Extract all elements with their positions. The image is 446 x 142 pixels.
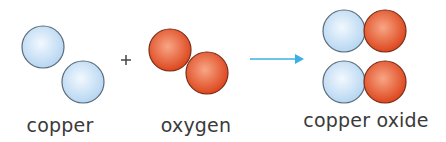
copper-atom	[22, 26, 64, 68]
copper-atom	[62, 61, 104, 103]
oxygen-atom	[364, 61, 406, 103]
oxygen-atom	[186, 52, 228, 94]
copper-oxide-label: copper oxide	[303, 109, 428, 131]
copper-atoms	[22, 26, 104, 103]
copper-atom	[323, 61, 365, 103]
oxygen-label: oxygen	[161, 114, 232, 136]
oxygen-atom	[149, 29, 191, 71]
copper-label: copper	[27, 114, 94, 136]
plus-icon	[121, 55, 131, 65]
reaction-arrow-icon	[250, 54, 304, 64]
reaction-diagram: copper oxygen copper oxide	[0, 0, 446, 142]
oxygen-molecule	[149, 29, 228, 94]
copper-atom	[323, 10, 365, 52]
oxygen-atom	[364, 10, 406, 52]
copper-oxide-units	[323, 10, 406, 103]
